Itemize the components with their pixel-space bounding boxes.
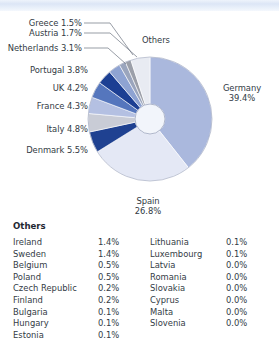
others-right-name: Luxembourg	[150, 249, 226, 261]
slice-label-others: Others	[118, 35, 194, 45]
pie-slices-group	[88, 57, 212, 181]
others-left-name: Czech Republic	[13, 283, 98, 295]
others-left-pct: 0.2%	[98, 295, 144, 307]
pie-chart-area: Greece 1.5% Austria 1.7% Netherlands 3.1…	[0, 11, 279, 216]
top-decorative-band	[0, 0, 279, 11]
others-right-pct: 0.1%	[226, 237, 266, 249]
table-row: Finland0.2%Cyprus0.0%	[13, 295, 266, 307]
others-right-name: Malta	[150, 307, 226, 319]
others-left-pct: 0.1%	[98, 318, 144, 330]
table-row: Hungary0.1%Slovenia0.0%	[13, 318, 266, 330]
others-breakdown-table: Others Ireland1.4%Lithuania0.1%Sweden1.4…	[0, 216, 279, 350]
slice-label-portugal: Portugal 3.8%	[0, 65, 88, 75]
others-left-pct: 0.2%	[98, 283, 144, 295]
others-right-name	[150, 330, 226, 342]
others-table-grid: Ireland1.4%Lithuania0.1%Sweden1.4%Luxemb…	[13, 237, 266, 341]
table-row: Sweden1.4%Luxembourg0.1%	[13, 249, 266, 261]
table-row: Belgium0.5%Latvia0.0%	[13, 260, 266, 272]
slice-label-netherlands: Netherlands 3.1%	[0, 43, 82, 53]
slice-label-uk: UK 4.2%	[0, 83, 88, 93]
others-right-name: Romania	[150, 272, 226, 284]
slice-label-germany-value: 39.4%	[205, 93, 279, 103]
others-left-pct: 0.1%	[98, 330, 144, 342]
slice-label-spain-value: 26.8%	[110, 206, 186, 216]
others-left-name: Finland	[13, 295, 98, 307]
others-right-pct: 0.1%	[226, 249, 266, 261]
others-right-name: Latvia	[150, 260, 226, 272]
others-left-name: Poland	[13, 272, 98, 284]
others-right-pct: 0.0%	[226, 307, 266, 319]
slice-label-spain-name: Spain	[110, 196, 186, 206]
others-table-title: Others	[13, 221, 46, 231]
table-row: Estonia0.1%	[13, 330, 266, 342]
slice-label-germany-name: Germany	[205, 83, 279, 93]
donut-center-hole	[135, 104, 165, 134]
others-right-pct: 0.0%	[226, 260, 266, 272]
slice-label-denmark: Denmark 5.5%	[0, 145, 88, 155]
others-left-name: Sweden	[13, 249, 98, 261]
others-left-pct: 0.5%	[98, 272, 144, 284]
others-right-name: Slovenia	[150, 318, 226, 330]
others-right-name: Slovakia	[150, 283, 226, 295]
table-row: Czech Republic0.2%Slovakia0.0%	[13, 283, 266, 295]
others-right-pct: 0.0%	[226, 283, 266, 295]
table-row: Poland0.5%Romania0.0%	[13, 272, 266, 284]
slice-label-italy: Italy 4.8%	[0, 124, 88, 134]
slice-label-france: France 4.3%	[0, 101, 88, 111]
others-right-pct	[226, 330, 266, 342]
others-left-name: Belgium	[13, 260, 98, 272]
others-right-pct: 0.0%	[226, 272, 266, 284]
slice-label-greece: Greece 1.5%	[0, 18, 82, 28]
others-table-body: Ireland1.4%Lithuania0.1%Sweden1.4%Luxemb…	[13, 237, 266, 341]
others-right-pct: 0.0%	[226, 318, 266, 330]
table-row: Bulgaria0.1%Malta0.0%	[13, 307, 266, 319]
others-left-pct: 0.1%	[98, 307, 144, 319]
table-row: Ireland1.4%Lithuania0.1%	[13, 237, 266, 249]
slice-label-austria: Austria 1.7%	[0, 28, 82, 38]
others-right-name: Cyprus	[150, 295, 226, 307]
others-right-name: Lithuania	[150, 237, 226, 249]
others-left-name: Ireland	[13, 237, 98, 249]
others-left-pct: 0.5%	[98, 260, 144, 272]
others-left-pct: 1.4%	[98, 249, 144, 261]
others-left-name: Estonia	[13, 330, 98, 342]
others-left-name: Hungary	[13, 318, 98, 330]
others-left-pct: 1.4%	[98, 237, 144, 249]
others-right-pct: 0.0%	[226, 295, 266, 307]
others-left-name: Bulgaria	[13, 307, 98, 319]
